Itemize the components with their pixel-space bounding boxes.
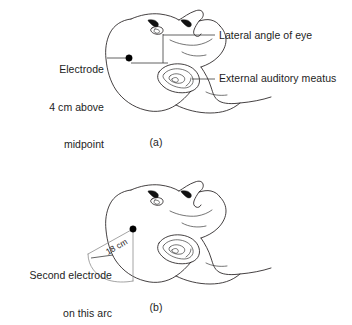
cheek-contour-a <box>170 39 212 45</box>
eye-iris-a <box>154 29 160 33</box>
label-electrode-line-3: midpoint <box>12 138 104 151</box>
panel-caption-a: (a) <box>136 136 176 148</box>
forehead-contour-b <box>131 185 179 191</box>
eyebrow-far-b <box>181 191 191 198</box>
panel-a-artwork <box>106 10 271 113</box>
label-external-auditory-meatus: External auditory meatus <box>219 72 351 85</box>
eyebrow-near-b <box>148 191 158 198</box>
ear-antihelix-a <box>163 69 193 88</box>
label-second-electrode-line-2: on this arc <box>8 307 112 320</box>
ear-lobe-crease-b <box>186 249 191 257</box>
head-outline-b <box>106 190 191 282</box>
cheek-contour-b <box>170 210 212 216</box>
shoulder-lower-a <box>176 103 240 113</box>
ear-external-auditory-meatus-a <box>158 64 200 93</box>
panel-b-artwork <box>88 181 271 284</box>
head-outline-a <box>106 19 191 111</box>
shoulder-lower-b <box>176 274 240 284</box>
label-electrode-above-midpoint: Electrode 4 cm above midpoint <box>12 38 104 176</box>
forehead-contour-a <box>131 14 179 20</box>
nose-and-lips-b <box>194 192 201 207</box>
electrode-dot-b <box>130 226 136 232</box>
label-lateral-angle-of-eye: Lateral angle of eye <box>219 29 349 42</box>
eye-iris-b <box>154 200 160 204</box>
label-second-electrode-on-arc: Second electrode on this arc <box>8 244 112 325</box>
label-electrode-line-1: Electrode <box>12 63 104 76</box>
nose-and-lips-a <box>194 21 201 36</box>
label-electrode-line-2: 4 cm above <box>12 101 104 114</box>
panel-caption-b: (b) <box>136 301 176 313</box>
ear-lobe-crease-a <box>186 78 191 86</box>
neck-crease-b <box>206 263 227 266</box>
ear-antihelix-b <box>163 240 193 259</box>
jaw-chin-b <box>201 197 226 238</box>
electrode-dot-a <box>126 55 132 61</box>
label-second-electrode-line-1: Second electrode <box>8 269 112 282</box>
neck-shoulder-b <box>201 238 271 275</box>
ear-external-auditory-meatus-b <box>158 235 200 264</box>
figure-root: Electrode 4 cm above midpoint Lateral an… <box>0 0 352 325</box>
mouth-crease-a <box>182 52 206 56</box>
mouth-crease-b <box>182 223 206 227</box>
eyebrow-near-a <box>148 20 158 27</box>
neck-crease-a <box>206 92 227 95</box>
eyebrow-far-a <box>181 20 191 27</box>
